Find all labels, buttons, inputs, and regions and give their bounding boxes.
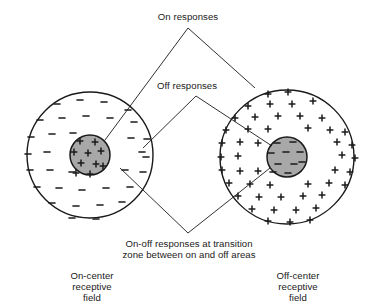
label-on-off-responses-line2: zone between on and off areas: [122, 249, 255, 261]
diagram-canvas: [0, 0, 373, 308]
off-center-receptive-field-center: [267, 137, 307, 177]
label-on-center-field-line2: receptive: [72, 281, 111, 293]
label-on-center-field-line1: On-center: [70, 270, 113, 282]
receptive-fields-figure: On responses Off responses On-off respon…: [0, 0, 373, 308]
label-off-center-field-line1: Off-center: [277, 270, 320, 282]
label-on-center-field-line3: field: [83, 292, 101, 304]
label-off-center-field-line3: field: [289, 292, 307, 304]
label-on-off-responses-line1: On-off responses at transition: [125, 238, 252, 250]
label-on-responses: On responses: [158, 11, 218, 23]
label-off-center-field-line2: receptive: [278, 281, 317, 293]
label-off-responses: Off responses: [157, 80, 217, 92]
on-center-receptive-field-center: [70, 135, 110, 175]
